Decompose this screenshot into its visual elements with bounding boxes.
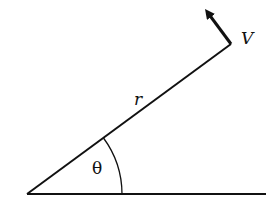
radius-line [27,44,231,194]
velocity-label: V [241,30,253,47]
polar-diagram: V r θ [0,0,273,204]
angle-arc [104,138,123,194]
angle-label: θ [92,160,102,177]
velocity-arrow [208,13,231,44]
radius-label: r [134,91,142,108]
